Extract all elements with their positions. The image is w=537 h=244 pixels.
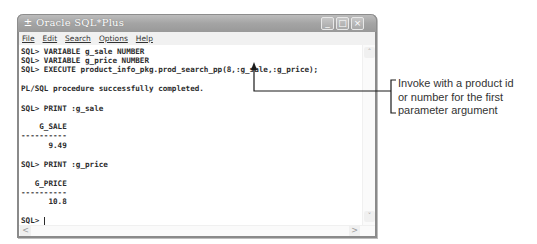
callout-line: or number for the first bbox=[398, 91, 537, 105]
callout-arrow bbox=[0, 0, 537, 244]
callout-line: parameter argument bbox=[398, 104, 537, 118]
callout-line: Invoke with a product id bbox=[398, 77, 537, 91]
callout-annotation: Invoke with a product id or number for t… bbox=[398, 77, 537, 118]
